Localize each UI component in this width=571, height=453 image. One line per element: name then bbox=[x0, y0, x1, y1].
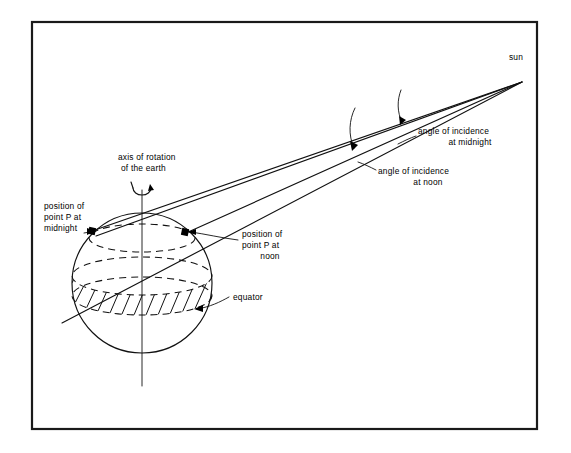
sun-ray-group bbox=[62, 82, 522, 323]
ray-to-noon-point bbox=[186, 82, 522, 233]
label-position-p-noon-line3: noon bbox=[260, 251, 280, 261]
label-position-p-midnight-line2: point P at bbox=[44, 212, 82, 222]
leader-equator-arrowhead-icon bbox=[194, 305, 203, 312]
angle-arc-group bbox=[350, 90, 406, 151]
earth-sun-diagram: sun angle of incidence at midnight angle… bbox=[0, 0, 571, 453]
label-position-p-noon-line2: point P at bbox=[242, 240, 280, 250]
ray-through-earth bbox=[62, 82, 522, 323]
label-position-p-noon-line1: position of bbox=[242, 229, 283, 239]
rotation-arrowhead-icon bbox=[148, 184, 154, 191]
point-p-noon-marker bbox=[181, 228, 189, 236]
label-equator: equator bbox=[233, 292, 263, 302]
label-position-p-midnight-line1: position of bbox=[44, 201, 85, 211]
label-group: sun angle of incidence at midnight angle… bbox=[44, 52, 523, 302]
label-angle-incidence-midnight-line2: at midnight bbox=[448, 137, 492, 147]
label-angle-incidence-noon-line1: angle of incidence bbox=[378, 166, 449, 176]
label-position-p-midnight-line3: midnight bbox=[44, 223, 78, 233]
figure-canvas: sun angle of incidence at midnight angle… bbox=[0, 0, 571, 453]
leader-position-p-noon bbox=[191, 232, 238, 240]
label-axis-of-rotation-line2: of the earth bbox=[121, 163, 166, 173]
label-angle-incidence-midnight-line1: angle of incidence bbox=[418, 126, 489, 136]
label-angle-incidence-noon-line2: at noon bbox=[413, 177, 442, 187]
rotation-arrow-tail-icon bbox=[131, 182, 133, 188]
label-sun: sun bbox=[509, 52, 523, 62]
label-axis-of-rotation-line1: axis of rotation bbox=[118, 152, 176, 162]
